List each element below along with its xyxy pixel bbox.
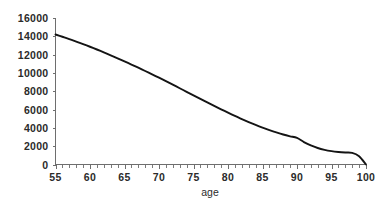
y-axis-tick-labels: 0200040006000800010000120001400016000 [18,12,49,171]
y-axis-tick-label: 8000 [24,85,49,97]
x-axis-tick-label: 85 [256,171,268,183]
x-axis-tick-label: 55 [49,171,61,183]
data-series-line [56,34,367,164]
x-axis-tick-label: 100 [357,171,375,183]
x-axis-group: 556065707580859095100 [49,165,375,183]
y-axis-tick-label: 4000 [24,122,49,134]
y-axis-tick-label: 0 [42,159,48,171]
x-axis-title: age [201,186,219,198]
x-axis-tick-label: 90 [291,171,303,183]
y-axis-tick-label: 2000 [24,140,49,152]
y-axis-tick-label: 6000 [24,104,49,116]
x-axis-minor-tick-marks [57,165,367,170]
x-axis-tick-label: 75 [187,171,199,183]
chart-container: 0200040006000800010000120001400016000 55… [0,0,385,217]
y-axis-tick-label: 14000 [18,30,49,42]
y-axis-tick-label: 16000 [18,12,49,24]
x-axis-tick-label: 80 [222,171,234,183]
line-chart: 0200040006000800010000120001400016000 55… [0,0,385,217]
x-axis-tick-label: 60 [84,171,96,183]
x-axis-tick-labels: 556065707580859095100 [49,171,375,183]
x-axis-tick-label: 65 [118,171,130,183]
y-axis-group: 0200040006000800010000120001400016000 [18,12,56,171]
y-axis-tick-label: 10000 [18,67,49,79]
x-axis-tick-label: 70 [153,171,165,183]
x-axis-tick-label: 95 [325,171,337,183]
y-axis-tick-label: 12000 [18,49,49,61]
